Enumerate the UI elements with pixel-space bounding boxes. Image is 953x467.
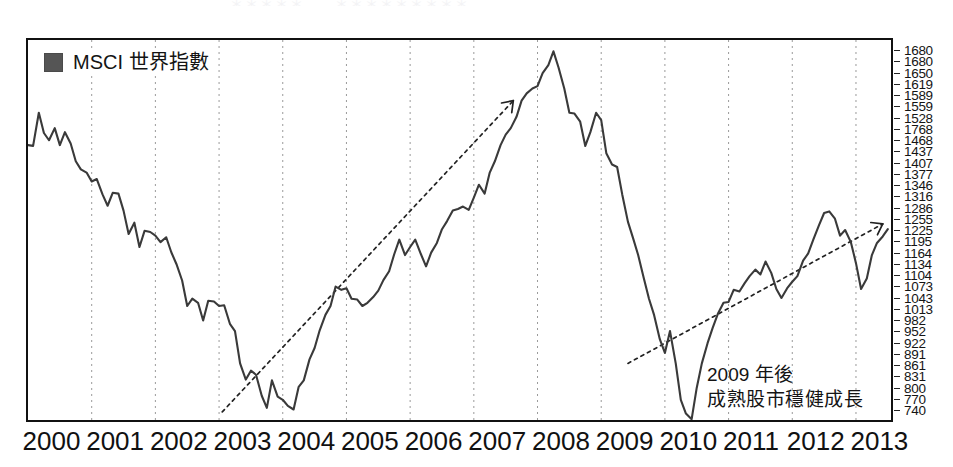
x-axis-tick: 2009 [596, 428, 654, 454]
annotation-line-2: 成熟股市穩健成長 [707, 387, 863, 412]
y-axis-tick-mark [894, 219, 900, 220]
y-axis-tick-mark [894, 320, 900, 321]
y-axis-tick: 740 [904, 404, 926, 418]
plot-area: MSCI 世界指數 2009 年後 成熟股市穩健成長 [26, 38, 893, 422]
x-axis-tick: 2002 [150, 428, 208, 454]
y-axis-tick-mark [894, 309, 900, 310]
y-axis-labels: 1680168016501619158915591528176814681437… [900, 38, 953, 422]
x-axis-tick: 2011 [723, 428, 779, 454]
y-axis-tick-mark [894, 286, 900, 287]
y-axis-tick-mark [894, 208, 900, 209]
y-axis-tick-mark [894, 163, 900, 164]
y-axis-tick-mark [894, 185, 900, 186]
x-axis-tick: 2008 [532, 428, 590, 454]
x-axis-tick: 2000 [23, 428, 81, 454]
y-axis-tick-mark [894, 410, 900, 411]
y-axis-tick-mark [894, 264, 900, 265]
y-axis-tick-mark [894, 331, 900, 332]
x-axis-tick: 2010 [659, 428, 717, 454]
x-axis-tick: 2005 [341, 428, 399, 454]
y-axis-tick-mark [894, 140, 900, 141]
y-axis-tick-mark [894, 298, 900, 299]
y-axis-tick-mark [894, 230, 900, 231]
y-axis-tick-mark [894, 61, 900, 62]
x-axis-tick: 2007 [468, 428, 526, 454]
x-axis-labels: 2000200120022003200420052006200720082009… [0, 428, 953, 467]
y-axis-tick-mark [894, 196, 900, 197]
y-axis-tick-mark [894, 73, 900, 74]
annotation-line-1: 2009 年後 [707, 362, 863, 387]
y-axis-tick-mark [894, 95, 900, 96]
y-axis-tick-mark [894, 241, 900, 242]
y-axis-tick-mark [894, 106, 900, 107]
x-axis-tick: 2006 [405, 428, 463, 454]
y-axis-tick-mark [894, 354, 900, 355]
annotation-post-2009: 2009 年後 成熟股市穩健成長 [707, 362, 863, 412]
y-axis-tick-mark [894, 399, 900, 400]
y-axis-tick-mark [894, 376, 900, 377]
legend-swatch-msci [44, 53, 63, 72]
x-axis-tick: 2012 [787, 428, 845, 454]
y-axis-tick-mark [894, 129, 900, 130]
y-axis-tick-mark [894, 50, 900, 51]
y-axis-tick-mark [894, 253, 900, 254]
y-axis-tick-mark [894, 151, 900, 152]
y-axis-tick-mark [894, 388, 900, 389]
legend: MSCI 世界指數 [42, 50, 215, 74]
y-axis-tick-mark [894, 84, 900, 85]
legend-label-msci: MSCI 世界指數 [73, 52, 209, 72]
x-axis-tick: 2001 [86, 428, 144, 454]
y-axis-tick-mark [894, 118, 900, 119]
chart-figure: ＊＊＊＊＊ ＊＊＊＊＊＊＊＊＊ MSCI 世界指數 2009 年後 成熟股市穩健… [0, 0, 953, 467]
y-axis-tick-mark [894, 343, 900, 344]
y-axis-tick-mark [894, 365, 900, 366]
x-axis-tick: 2004 [277, 428, 335, 454]
y-axis-tick-mark [894, 174, 900, 175]
x-axis-tick: 2003 [214, 428, 272, 454]
clipped-title: ＊＊＊＊＊ ＊＊＊＊＊＊＊＊＊ [230, 0, 730, 6]
x-axis-tick: 2013 [850, 428, 908, 454]
y-axis-tick-mark [894, 275, 900, 276]
